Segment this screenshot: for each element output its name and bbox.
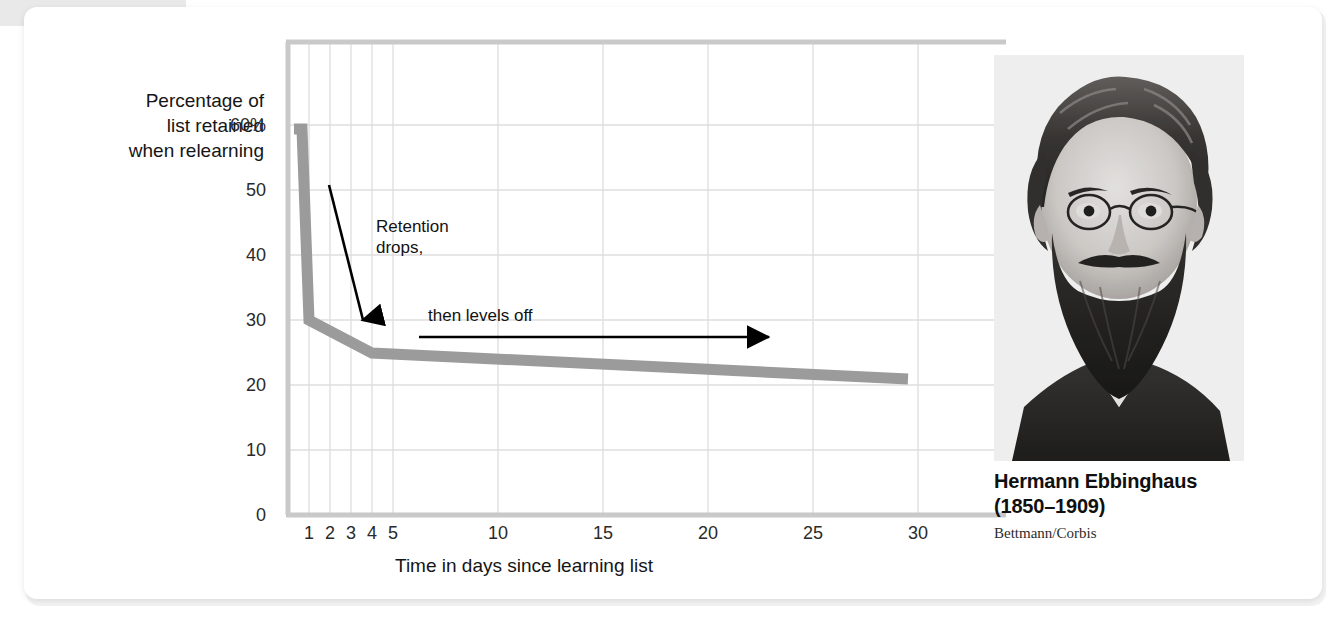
x-tick-20: 20 <box>686 523 730 544</box>
x-tick-15: 15 <box>581 523 625 544</box>
ebbinghaus-portrait <box>994 55 1244 461</box>
portrait-illustration <box>994 55 1244 461</box>
vertical-gridlines <box>309 42 918 515</box>
figure-card: Percentage of list retained when relearn… <box>24 7 1322 599</box>
portrait-block: Hermann Ebbinghaus (1850–1909) Bettmann/… <box>994 55 1294 542</box>
annotation-retention-drops-line1: Retention <box>376 216 449 237</box>
y-tick-50: 50 <box>206 180 266 201</box>
x-axis-title: Time in days since learning list <box>24 553 1024 578</box>
y-axis-title-line3: when relearning <box>64 138 264 163</box>
y-tick-10: 10 <box>206 440 266 461</box>
y-tick-0: 0 <box>206 505 266 526</box>
screenshot-root: Percentage of list retained when relearn… <box>0 0 1344 629</box>
y-tick-30: 30 <box>206 310 266 331</box>
y-tick-20: 20 <box>206 375 266 396</box>
y-axis-title-line1: Percentage of <box>64 88 264 113</box>
x-tick-25: 25 <box>791 523 835 544</box>
portrait-caption-name: Hermann Ebbinghaus (1850–1909) <box>994 469 1294 519</box>
x-tick-30: 30 <box>896 523 940 544</box>
y-tick-60: 60% <box>206 115 266 136</box>
portrait-photo-credit: Bettmann/Corbis <box>994 525 1294 542</box>
retention-drops-arrow <box>329 185 363 320</box>
y-tick-40: 40 <box>206 245 266 266</box>
annotation-then-levels-off: then levels off <box>428 305 533 326</box>
x-tick-10: 10 <box>476 523 520 544</box>
annotation-retention-drops: Retention drops, <box>376 216 449 258</box>
x-tick-5: 5 <box>371 523 415 544</box>
plot-frame <box>286 42 1006 515</box>
horizontal-gridlines <box>286 125 1006 450</box>
annotation-retention-drops-line2: drops, <box>376 237 449 258</box>
